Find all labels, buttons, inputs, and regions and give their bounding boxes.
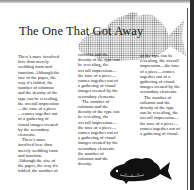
paragraph: columns and the density of the type can …: [78, 52, 120, 99]
paragraph: The number of columns and the density of…: [140, 95, 180, 137]
text-column-2: columns and the density of the type can …: [78, 52, 120, 166]
page-right-border: [190, 0, 194, 190]
page-top-edge: [0, 0, 194, 3]
text-column-3: of the type can be revealing, the overal…: [140, 53, 180, 136]
text-column-1: There's more involved here than merely w…: [18, 54, 60, 174]
document-page: The One That Got Away There's more invol…: [0, 0, 194, 190]
paragraph: of the type can be revealing, the overal…: [140, 53, 180, 95]
black-fish-icon: [108, 155, 176, 185]
paragraph: There's more involved here than merely w…: [18, 54, 60, 137]
document-title: The One That Got Away: [19, 24, 143, 39]
paragraph: There's more involved here than merely w…: [18, 137, 60, 173]
